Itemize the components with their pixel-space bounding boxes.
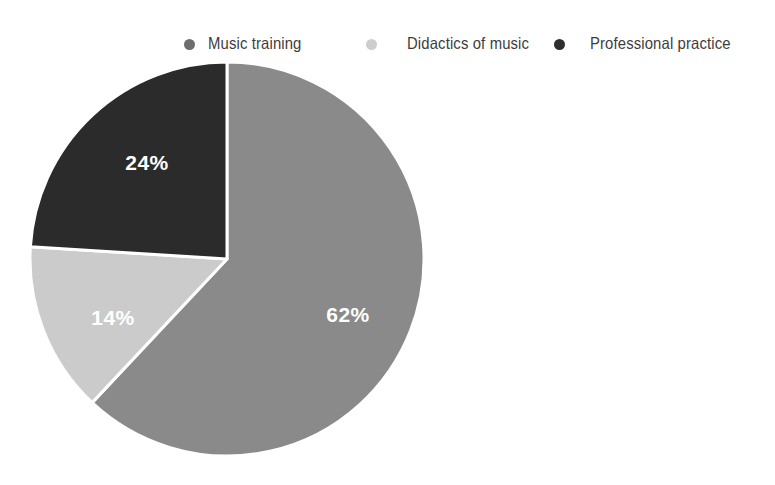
pie-slice-label: 62% [326,303,370,326]
pie-slice-label: 24% [125,151,169,174]
pie-slice-label: 14% [91,306,135,329]
pie-plot-area: 62%14%24% [0,0,775,485]
pie-slices-group [30,62,424,456]
pie-chart-figure: Music training Didactics of music Profes… [0,0,775,485]
pie-svg: 62%14%24% [0,0,775,485]
